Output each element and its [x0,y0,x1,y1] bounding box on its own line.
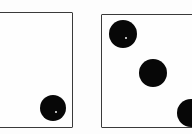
left-die-pip-bottom-right [40,95,66,121]
right-die-pip-top-left [109,20,137,48]
left-die [0,12,73,128]
right-die [101,14,192,128]
dice-scene [0,0,192,134]
right-die-pip-bottom-right [177,99,192,127]
right-die-pip-center [139,59,167,87]
